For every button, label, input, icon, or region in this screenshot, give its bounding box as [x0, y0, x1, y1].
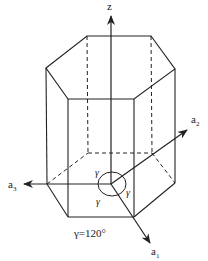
z-label: z: [107, 0, 112, 12]
edge-left: [46, 68, 47, 184]
a1-axis: [111, 184, 150, 243]
gamma-mark-lower: γ: [96, 196, 101, 207]
a2-label: a2: [191, 113, 200, 128]
gamma-mark-right: γ: [126, 187, 131, 198]
hexagonal-prism-diagram: z a3 a2 a1 γ γ γ γ=120°: [0, 0, 208, 261]
a1-label: a1: [151, 245, 160, 260]
a3-label: a3: [8, 178, 17, 193]
axes: [24, 16, 187, 243]
angle-caption: γ=120°: [73, 227, 106, 239]
gamma-mark-upper-left: γ: [95, 167, 100, 178]
